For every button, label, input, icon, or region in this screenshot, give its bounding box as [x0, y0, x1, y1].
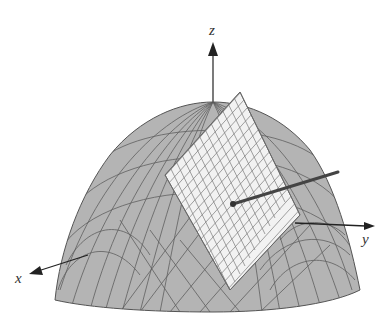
z-axis-label: z — [208, 22, 215, 38]
y-axis-label: y — [360, 231, 369, 247]
tangent-point — [230, 201, 236, 207]
paraboloid-diagram: z — [0, 0, 391, 335]
z-axis: z — [208, 22, 218, 112]
x-axis-label: x — [14, 270, 22, 286]
